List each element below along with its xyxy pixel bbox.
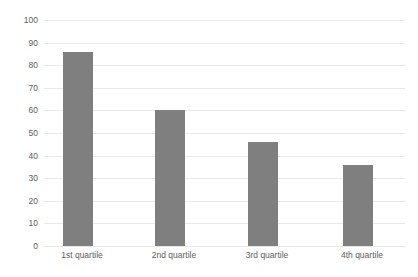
y-axis-tick-label: 40 — [4, 151, 38, 160]
bar[interactable] — [155, 110, 185, 246]
x-axis-tick-label: 4th quartile — [316, 250, 408, 260]
bar[interactable] — [248, 142, 278, 246]
y-axis-tick-label: 20 — [4, 197, 38, 206]
y-axis-tick-label: 10 — [4, 219, 38, 228]
bar[interactable] — [343, 165, 373, 246]
bars-layer — [44, 20, 405, 246]
bar[interactable] — [63, 52, 93, 246]
y-axis-tick-label: 60 — [4, 106, 38, 115]
y-axis-tick-label: 90 — [4, 38, 38, 47]
bar-chart: 100 90 80 70 60 50 40 30 20 10 0 1st qua… — [0, 0, 418, 277]
y-axis: 100 90 80 70 60 50 40 30 20 10 0 — [0, 20, 38, 246]
x-axis-tick-label: 2nd quartile — [128, 250, 220, 260]
y-axis-tick-label: 30 — [4, 174, 38, 183]
x-axis-tick-label: 1st quartile — [36, 250, 128, 260]
x-axis-tick-label: 3rd quartile — [221, 250, 313, 260]
y-axis-tick-label: 70 — [4, 84, 38, 93]
y-axis-tick-label: 50 — [4, 129, 38, 138]
gridline — [44, 246, 405, 247]
y-axis-tick-label: 0 — [4, 242, 38, 251]
x-axis: 1st quartile 2nd quartile 3rd quartile 4… — [44, 250, 405, 270]
y-axis-tick-label: 100 — [4, 16, 38, 25]
y-axis-tick-label: 80 — [4, 61, 38, 70]
